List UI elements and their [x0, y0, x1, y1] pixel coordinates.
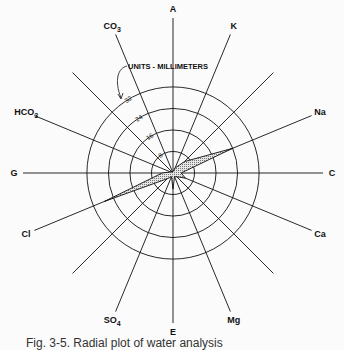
figure-caption: Fig. 3-5. Radial plot of water analysis	[26, 336, 223, 350]
ring-label-24: 24	[134, 113, 144, 123]
axis-label-c: C	[329, 168, 336, 178]
ring-labels: 8162432	[123, 94, 164, 159]
axis-label-cl: Cl	[22, 229, 31, 239]
spoke-45	[173, 73, 273, 173]
spoke-HCO3	[34, 116, 173, 173]
analysis-polygon	[105, 148, 233, 201]
axis-label-k: K	[231, 21, 238, 31]
spoke-Ca	[173, 173, 312, 230]
axis-label-g: G	[10, 168, 17, 178]
axis-label-mg: Mg	[227, 315, 240, 325]
units-annotation: UNITS - MILLIMETERS	[117, 62, 208, 99]
spoke-135	[173, 173, 273, 273]
axis-label-hco3: HCO3	[14, 107, 38, 119]
axis-label-a: A	[170, 4, 177, 14]
spoke-225	[73, 173, 173, 273]
spoke-Mg	[173, 173, 230, 312]
analysis-shape	[105, 148, 233, 201]
spoke-CO3	[116, 34, 173, 173]
units-arrow-icon	[117, 66, 127, 98]
axis-label-ca: Ca	[314, 229, 326, 239]
units-label: UNITS - MILLIMETERS	[128, 62, 208, 71]
ring-label-32: 32	[123, 94, 133, 104]
axis-label-so4: SO4	[104, 315, 121, 327]
spoke-315	[73, 73, 173, 173]
axis-label-na: Na	[314, 107, 326, 117]
axis-label-co3: CO3	[103, 21, 121, 33]
